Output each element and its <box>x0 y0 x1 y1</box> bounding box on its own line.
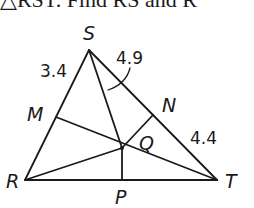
label-q: Q <box>139 132 154 154</box>
label-p: P <box>115 186 127 208</box>
segment-rq <box>25 148 122 180</box>
segment-mt <box>56 117 217 180</box>
label-r: R <box>6 170 19 192</box>
length-sq: 4.9 <box>116 48 143 68</box>
length-nt: 4.4 <box>190 128 217 148</box>
length-sm: 3.4 <box>40 61 67 81</box>
label-n: N <box>162 94 176 116</box>
leader-arc-sq <box>108 68 130 90</box>
label-t: T <box>225 170 238 192</box>
label-s: S <box>83 22 95 44</box>
triangle-diagram: S R T M N Q P 3.4 4.9 4.4 <box>0 0 254 208</box>
label-m: M <box>27 103 43 125</box>
point-q-dot <box>120 146 124 150</box>
